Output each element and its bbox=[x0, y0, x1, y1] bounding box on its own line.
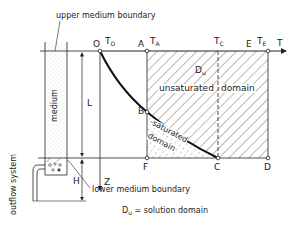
domain-label: domain bbox=[220, 84, 256, 93]
te-label: TE bbox=[257, 37, 266, 47]
point-b-label: B bbox=[138, 107, 144, 116]
point-e-label: E bbox=[246, 40, 252, 49]
outflow-system-label: outflow system bbox=[10, 154, 18, 215]
du-label: Du bbox=[195, 66, 206, 76]
outflow-pipe bbox=[33, 165, 45, 201]
t0-label: TO bbox=[105, 37, 115, 47]
point-d-label: D bbox=[264, 163, 271, 172]
l-label: L bbox=[87, 99, 92, 108]
tc-label: TC bbox=[214, 37, 224, 47]
h-label: H bbox=[73, 177, 80, 186]
t-axis-label: T bbox=[277, 39, 283, 48]
point-c-label: C bbox=[214, 163, 220, 172]
ta-label: TA bbox=[150, 37, 160, 47]
upper-boundary-label: upper medium boundary bbox=[56, 12, 156, 20]
diagram-canvas bbox=[0, 0, 295, 230]
point-o-label: O bbox=[93, 40, 100, 49]
medium-label: medium bbox=[51, 89, 59, 122]
point-a-label: A bbox=[138, 40, 144, 49]
point-f-label: F bbox=[143, 163, 148, 172]
unsaturated-label: unsaturated bbox=[158, 84, 215, 93]
lower-boundary-label: lower medium boundary bbox=[92, 186, 190, 194]
legend: Du = solution domain bbox=[122, 207, 208, 216]
